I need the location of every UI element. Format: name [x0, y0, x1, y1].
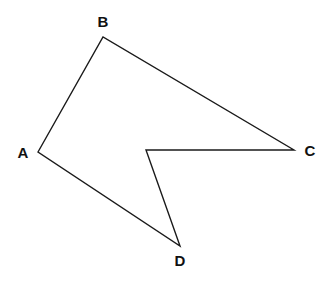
vertex-label-b: B — [98, 13, 109, 30]
vertex-label-c: C — [305, 142, 316, 159]
vertex-label-d: D — [175, 252, 186, 269]
polygon-diagram: A B C D — [0, 0, 334, 284]
vertex-label-a: A — [18, 144, 29, 161]
concave-polygon-abcd — [38, 37, 294, 246]
